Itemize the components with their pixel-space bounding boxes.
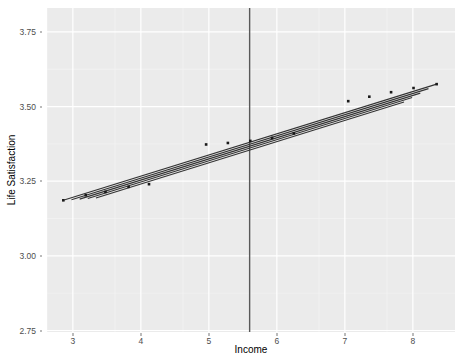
minor-gridlines	[47, 8, 455, 332]
y-tick-label: 3.00	[19, 251, 36, 261]
y-tick-mark	[40, 255, 43, 256]
y-tick-mark	[40, 330, 43, 331]
y-tick-label: 3.25	[19, 176, 36, 186]
y-tick-mark	[40, 31, 43, 32]
y-tick-mark	[40, 181, 43, 182]
x-axis-title: Income	[47, 344, 455, 355]
plot-overlay	[47, 8, 455, 332]
plot-panel	[47, 8, 455, 332]
chart-root: 2.753.003.253.503.75 345678 Life Satisfa…	[0, 0, 464, 363]
y-tick-label: 2.75	[19, 326, 36, 336]
y-tick-label: 3.75	[19, 27, 36, 37]
y-axis-title: Life Satisfaction	[6, 90, 17, 250]
y-tick-mark	[40, 106, 43, 107]
y-tick-label: 3.50	[19, 102, 36, 112]
